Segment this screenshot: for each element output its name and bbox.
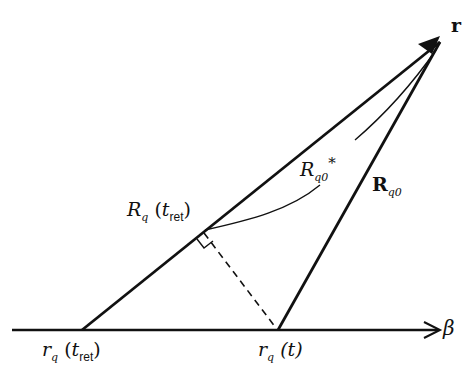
label-rq-tret: rq (tret)	[42, 340, 101, 359]
perpendicular-dashed	[204, 233, 276, 328]
label-Rq0-star-main: R	[300, 158, 314, 180]
label-rq-tret-close: )	[93, 338, 100, 360]
label-Rq-tret-open: (	[154, 198, 161, 220]
Rq0-star-arc	[205, 185, 320, 230]
Rq0-star-arc-upper	[355, 50, 436, 140]
label-Rq0-star-sub: q0	[314, 171, 328, 184]
label-Rq0-star-sup: *	[328, 154, 336, 172]
label-beta: β	[443, 318, 455, 338]
label-Rq-tret-sub: q	[141, 211, 148, 224]
beta-axis	[12, 322, 440, 338]
label-rq-tret-sub: q	[51, 351, 58, 364]
label-Rq0: Rq0	[372, 175, 402, 194]
label-rq-t-args: (t)	[280, 338, 302, 360]
label-beta-text: β	[443, 316, 455, 340]
right-angle-marker	[197, 239, 213, 248]
label-Rq-tret: Rq (tret)	[127, 200, 191, 219]
label-r: r	[451, 16, 461, 35]
label-rq-t: rq (t)	[258, 340, 303, 359]
label-Rq0-sub: q0	[388, 186, 402, 199]
label-rq-tret-main: r	[42, 338, 51, 360]
vector-Rq0	[278, 42, 440, 330]
label-rq-tret-varsub: ret	[79, 350, 93, 364]
label-Rq-tret-main: R	[127, 198, 141, 220]
label-rq-t-sub: q	[267, 351, 274, 364]
label-rq-t-main: r	[258, 338, 267, 360]
label-Rq-tret-close: )	[183, 198, 190, 220]
label-Rq-tret-varsub: ret	[169, 210, 183, 224]
label-r-text: r	[451, 14, 461, 36]
label-rq-tret-open: (	[64, 338, 71, 360]
label-Rq0-star: Rq0*	[300, 160, 336, 179]
label-Rq0-main: R	[372, 173, 388, 195]
